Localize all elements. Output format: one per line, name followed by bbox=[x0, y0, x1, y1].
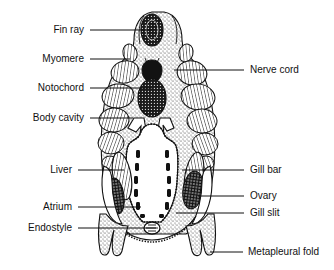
notochord bbox=[138, 79, 166, 117]
label-liver: Liver bbox=[50, 164, 72, 175]
label-fin-ray: Fin ray bbox=[53, 24, 84, 35]
label-body-cavity: Body cavity bbox=[33, 112, 84, 123]
label-nerve-cord: Nerve cord bbox=[250, 64, 299, 75]
diagram-canvas: Fin ray Myomere Notochord Body cavity Li… bbox=[0, 0, 334, 270]
label-atrium: Atrium bbox=[43, 201, 72, 212]
label-endostyle: Endostyle bbox=[28, 222, 72, 233]
label-gill-slit: Gill slit bbox=[250, 207, 280, 218]
label-metapleural-fold: Metapleural fold bbox=[248, 246, 319, 257]
left-labels: Fin ray Myomere Notochord Body cavity Li… bbox=[28, 24, 84, 233]
label-myomere: Myomere bbox=[42, 53, 84, 64]
anatomy-figure: Fin ray Myomere Notochord Body cavity Li… bbox=[0, 0, 334, 270]
right-labels: Nerve cord Gill bar Ovary Gill slit Meta… bbox=[248, 64, 319, 257]
label-notochord: Notochord bbox=[38, 82, 84, 93]
label-gill-bar: Gill bar bbox=[250, 164, 282, 175]
label-ovary: Ovary bbox=[250, 190, 277, 201]
